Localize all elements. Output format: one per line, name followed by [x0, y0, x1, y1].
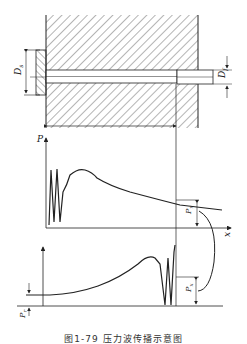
pump-body — [46, 15, 198, 128]
pipe-diameter-label: Df — [217, 67, 229, 79]
transfer-arc — [198, 211, 215, 291]
lower-pressure-plot — [17, 245, 223, 316]
nozzle-cap — [24, 50, 46, 95]
position-axis-label: x — [223, 232, 233, 237]
nozzle-diameter-label: Ds — [13, 65, 24, 76]
lower-pressure-label: Px — [184, 283, 194, 293]
residual-pressure-label: Pr — [18, 310, 28, 319]
figure-caption: 图1-79 压力波传播示意图 — [0, 332, 247, 344]
pressure-axis-label: P — [36, 134, 44, 144]
pressure-wave-diagram: Ds Df P x Px — [0, 0, 247, 344]
